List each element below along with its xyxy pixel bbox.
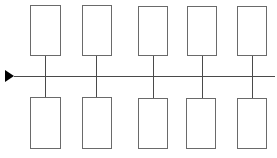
main-timeline-line xyxy=(14,76,275,77)
bottom-connector-2 xyxy=(96,76,97,97)
bottom-box-4 xyxy=(186,98,216,149)
top-box-1 xyxy=(30,5,61,56)
top-box-5 xyxy=(237,6,267,56)
bottom-connector-3 xyxy=(153,76,154,98)
timeline-diagram xyxy=(0,0,277,158)
top-box-2 xyxy=(82,5,112,56)
bottom-connector-1 xyxy=(45,76,46,97)
top-box-3 xyxy=(138,6,168,56)
top-connector-4 xyxy=(202,56,203,76)
bottom-connector-4 xyxy=(202,76,203,98)
top-connector-2 xyxy=(96,56,97,76)
top-connector-1 xyxy=(45,56,46,76)
bottom-box-3 xyxy=(138,98,168,149)
top-connector-3 xyxy=(153,56,154,76)
bottom-box-1 xyxy=(30,97,61,149)
top-box-4 xyxy=(187,6,217,56)
bottom-box-5 xyxy=(237,98,267,149)
start-arrow-icon xyxy=(5,70,14,82)
bottom-box-2 xyxy=(82,97,112,149)
bottom-connector-5 xyxy=(252,76,253,98)
top-connector-5 xyxy=(252,56,253,76)
